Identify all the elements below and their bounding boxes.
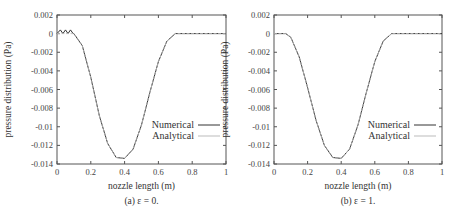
- legend-label-analytical: Analytical: [368, 130, 410, 141]
- y-tick-label: -0.014: [248, 159, 271, 169]
- y-tick-label: -0.006: [248, 85, 270, 95]
- x-tick-label: 0: [272, 167, 276, 177]
- y-axis-title: pressure distribution (Pa): [220, 41, 231, 137]
- series-numerical-line: [274, 34, 442, 159]
- y-tick-label: -0.01: [252, 122, 270, 132]
- y-tick-label: -0.008: [248, 103, 270, 113]
- y-tick-label: -0.012: [248, 140, 270, 150]
- y-tick-label: -0.004: [248, 66, 271, 76]
- x-tick-label: 0.8: [403, 167, 414, 177]
- y-tick-label: 0: [266, 29, 270, 39]
- legend-label-numerical: Numerical: [368, 119, 410, 130]
- series-analytical-line: [274, 34, 442, 159]
- chart-b-svg: 0.0020-0.002-0.004-0.006-0.008-0.01-0.01…: [0, 0, 460, 214]
- y-tick-label: 0.002: [251, 10, 270, 20]
- x-axis-title: nozzle length (m): [324, 181, 391, 192]
- x-tick-label: 0.6: [369, 167, 380, 177]
- figure-caption: (b) ε = 1.: [341, 196, 376, 207]
- plot-b: 0.0020-0.002-0.004-0.006-0.008-0.01-0.01…: [220, 10, 444, 207]
- x-tick-label: 1: [440, 167, 444, 177]
- chart-panel-b: 0.0020-0.002-0.004-0.006-0.008-0.01-0.01…: [0, 0, 230, 214]
- x-tick-label: 0.2: [302, 167, 313, 177]
- x-tick-label: 0.4: [336, 167, 347, 177]
- plot-frame: [274, 15, 442, 164]
- y-tick-label: -0.002: [248, 47, 270, 57]
